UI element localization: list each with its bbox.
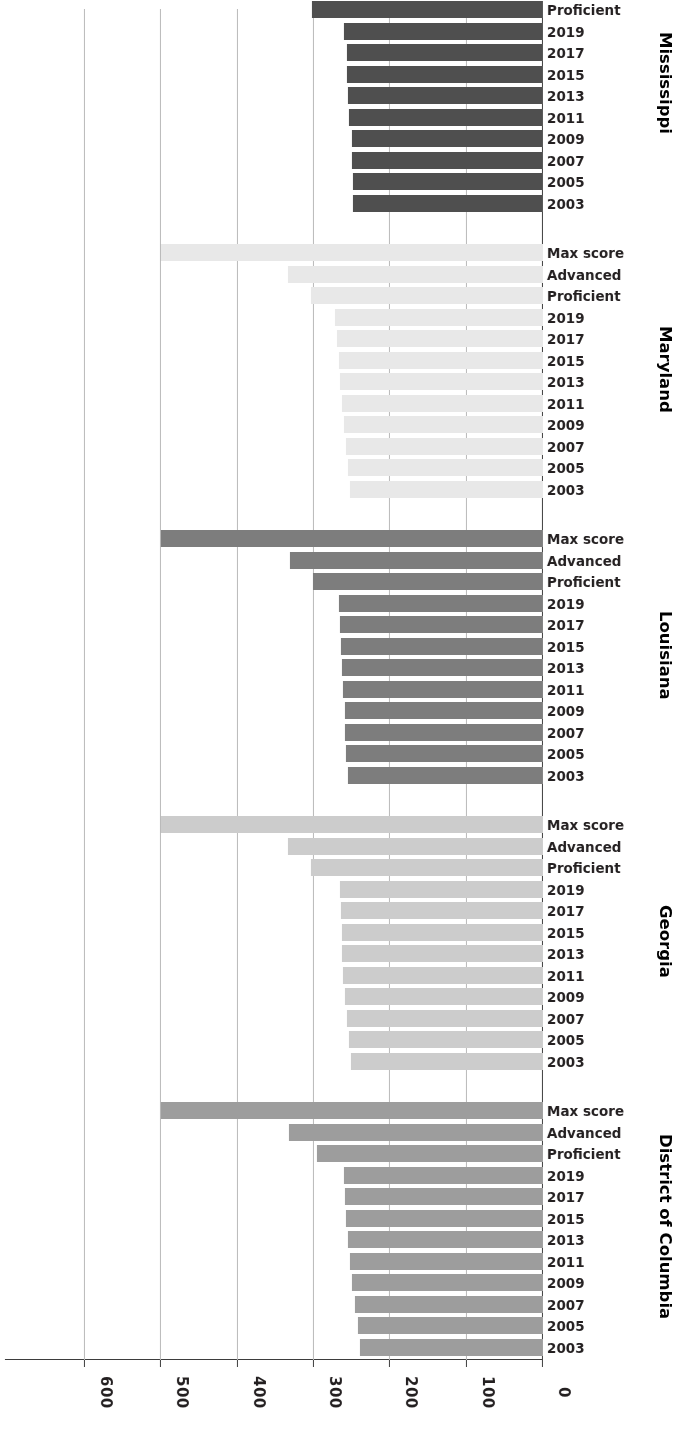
bar[interactable] <box>342 946 543 963</box>
bar[interactable] <box>288 838 543 855</box>
bar-row[interactable] <box>5 2 543 19</box>
bar[interactable] <box>348 88 543 105</box>
bar-row[interactable] <box>5 23 543 40</box>
bar-row[interactable] <box>5 309 543 326</box>
bar-row[interactable] <box>5 946 543 963</box>
bar[interactable] <box>349 109 543 126</box>
bar[interactable] <box>313 574 543 591</box>
bar-row[interactable] <box>5 1010 543 1027</box>
bar-row[interactable] <box>5 903 543 920</box>
bar-row[interactable] <box>5 45 543 62</box>
bar[interactable] <box>340 881 543 898</box>
bar[interactable] <box>358 1318 543 1335</box>
bar[interactable] <box>344 417 543 434</box>
bar-row[interactable] <box>5 681 543 698</box>
bar[interactable] <box>353 195 543 212</box>
bar-row[interactable] <box>5 746 543 763</box>
bar[interactable] <box>347 45 543 62</box>
bar-row[interactable] <box>5 531 543 548</box>
bar-row[interactable] <box>5 1275 543 1292</box>
bar-row[interactable] <box>5 724 543 741</box>
bar[interactable] <box>335 309 543 326</box>
bar-row[interactable] <box>5 767 543 784</box>
bar-row[interactable] <box>5 245 543 262</box>
bar[interactable] <box>343 967 543 984</box>
bar[interactable] <box>349 1032 543 1049</box>
bar-row[interactable] <box>5 131 543 148</box>
bar-row[interactable] <box>5 838 543 855</box>
bar-row[interactable] <box>5 660 543 677</box>
bar-row[interactable] <box>5 703 543 720</box>
bar-row[interactable] <box>5 967 543 984</box>
bar[interactable] <box>344 23 543 40</box>
bar-row[interactable] <box>5 288 543 305</box>
bar-row[interactable] <box>5 1032 543 1049</box>
bar[interactable] <box>347 1010 543 1027</box>
bar[interactable] <box>352 152 543 169</box>
bar-row[interactable] <box>5 109 543 126</box>
bar-row[interactable] <box>5 552 543 569</box>
bar-row[interactable] <box>5 1210 543 1227</box>
bar-row[interactable] <box>5 1253 543 1270</box>
bar-row[interactable] <box>5 352 543 369</box>
bar-row[interactable] <box>5 195 543 212</box>
bar[interactable] <box>340 617 543 634</box>
bar[interactable] <box>311 288 543 305</box>
bar[interactable] <box>351 1053 543 1070</box>
bar[interactable] <box>350 1253 543 1270</box>
bar-row[interactable] <box>5 1146 543 1163</box>
bar-row[interactable] <box>5 1232 543 1249</box>
bar[interactable] <box>288 266 543 283</box>
bar[interactable] <box>337 331 543 348</box>
bar-row[interactable] <box>5 1167 543 1184</box>
bar[interactable] <box>352 1275 543 1292</box>
bar[interactable] <box>350 481 543 498</box>
bar-row[interactable] <box>5 860 543 877</box>
bar[interactable] <box>343 681 543 698</box>
bar-row[interactable] <box>5 1339 543 1356</box>
bar[interactable] <box>345 703 543 720</box>
bar[interactable] <box>162 245 544 262</box>
bar[interactable] <box>342 924 543 941</box>
bar[interactable] <box>162 531 544 548</box>
bar-row[interactable] <box>5 1296 543 1313</box>
bar[interactable] <box>346 1210 543 1227</box>
bar-row[interactable] <box>5 1189 543 1206</box>
bar[interactable] <box>339 352 543 369</box>
bar[interactable] <box>353 174 543 191</box>
bar-row[interactable] <box>5 481 543 498</box>
bar[interactable] <box>346 746 543 763</box>
bar-row[interactable] <box>5 1318 543 1335</box>
bar[interactable] <box>290 552 543 569</box>
bar-row[interactable] <box>5 374 543 391</box>
bar[interactable] <box>345 1189 543 1206</box>
bar-row[interactable] <box>5 438 543 455</box>
bar-row[interactable] <box>5 881 543 898</box>
bar-row[interactable] <box>5 174 543 191</box>
bar-row[interactable] <box>5 989 543 1006</box>
bar-row[interactable] <box>5 417 543 434</box>
bar[interactable] <box>342 395 543 412</box>
bar-row[interactable] <box>5 1053 543 1070</box>
bar[interactable] <box>348 1232 543 1249</box>
bar-row[interactable] <box>5 88 543 105</box>
bar-row[interactable] <box>5 1124 543 1141</box>
bar[interactable] <box>162 817 544 834</box>
bar[interactable] <box>340 374 543 391</box>
bar-row[interactable] <box>5 638 543 655</box>
bar[interactable] <box>341 903 543 920</box>
bar[interactable] <box>346 438 543 455</box>
bar-row[interactable] <box>5 617 543 634</box>
bar-row[interactable] <box>5 574 543 591</box>
bar[interactable] <box>317 1146 543 1163</box>
bar-row[interactable] <box>5 924 543 941</box>
bar[interactable] <box>162 1103 544 1120</box>
bar[interactable] <box>360 1339 543 1356</box>
bar[interactable] <box>345 989 543 1006</box>
bar-row[interactable] <box>5 66 543 83</box>
bar[interactable] <box>339 595 543 612</box>
bar[interactable] <box>348 460 543 477</box>
bar[interactable] <box>345 724 543 741</box>
bar[interactable] <box>352 131 543 148</box>
bar-row[interactable] <box>5 1103 543 1120</box>
